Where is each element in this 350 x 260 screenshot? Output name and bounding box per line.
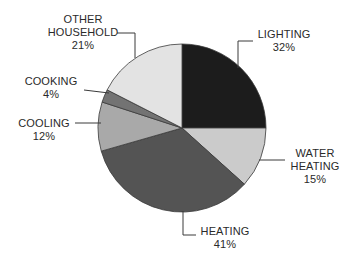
label-heating-name: HEATING xyxy=(195,225,255,238)
label-water-heating-line2: HEATING xyxy=(283,160,347,173)
label-cooking-name: COOKING xyxy=(22,75,80,88)
pie-slice-lighting xyxy=(182,44,266,128)
label-cooling-pct: 12% xyxy=(14,130,74,143)
leader-line-cooking xyxy=(84,90,109,93)
label-cooking-pct: 4% xyxy=(22,88,80,101)
pie-slices xyxy=(98,44,266,212)
label-cooling-name: COOLING xyxy=(14,117,74,130)
label-other-household-line1: OTHER xyxy=(45,13,121,26)
label-lighting-name: LIGHTING xyxy=(252,28,316,41)
label-lighting-pct: 32% xyxy=(252,41,316,54)
label-heating-pct: 41% xyxy=(195,238,255,251)
label-other-household: OTHER HOUSEHOLD 21% xyxy=(45,13,121,52)
label-water-heating: WATER HEATING 15% xyxy=(283,147,347,186)
label-cooling: COOLING 12% xyxy=(14,117,74,143)
label-lighting: LIGHTING 32% xyxy=(252,28,316,54)
label-water-heating-line1: WATER xyxy=(283,147,347,160)
label-cooking: COOKING 4% xyxy=(22,75,80,101)
label-other-household-pct: 21% xyxy=(45,39,121,52)
label-heating: HEATING 41% xyxy=(195,225,255,251)
label-water-heating-pct: 15% xyxy=(283,173,347,186)
label-other-household-line2: HOUSEHOLD xyxy=(45,26,121,39)
leader-line-lighting xyxy=(238,41,253,68)
